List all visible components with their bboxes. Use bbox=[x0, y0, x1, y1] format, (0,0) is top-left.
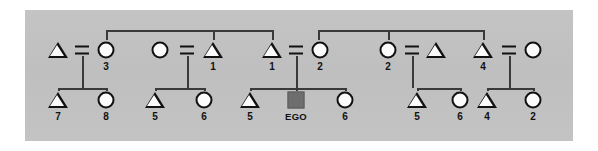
panel-background bbox=[25, 10, 573, 141]
kinship-diagram: 31122478565EGO65642 bbox=[0, 0, 598, 151]
diagram-panel bbox=[25, 10, 573, 141]
